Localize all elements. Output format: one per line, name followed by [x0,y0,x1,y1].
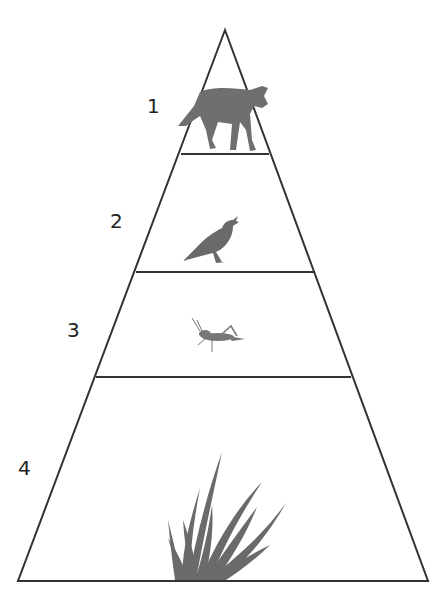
level-label-4: 4 [18,456,31,480]
grass-icon [168,452,286,580]
level-label-3: 3 [67,318,80,342]
grasshopper-icon [192,318,245,352]
level-label-2: 2 [110,209,123,233]
bird-icon [183,216,239,263]
food-pyramid [0,0,447,601]
coyote-icon [178,86,268,151]
level-label-1: 1 [147,94,160,118]
